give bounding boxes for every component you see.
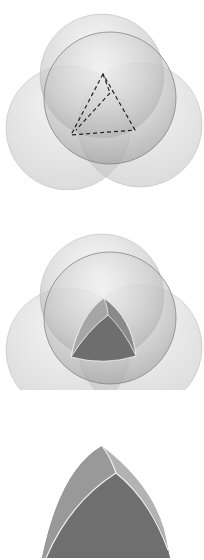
sphere-front — [44, 32, 176, 164]
spheres-reuleaux-illustration — [0, 190, 204, 390]
panel-spheres-with-tetrahedron — [0, 0, 204, 190]
spheres-tetrahedron-illustration — [0, 0, 204, 190]
panel-spheres-with-reuleaux — [0, 190, 204, 390]
reuleaux-tetrahedron-illustration — [0, 440, 204, 560]
panel-reuleaux-tetrahedron — [0, 440, 204, 560]
